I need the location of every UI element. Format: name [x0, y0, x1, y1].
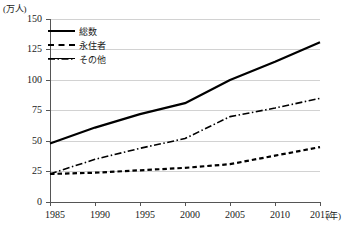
series-line-other [50, 98, 320, 174]
legend-item-total: 総数 [48, 24, 158, 38]
legend-swatch-dashdot-icon [48, 53, 75, 65]
legend-item-other: その他 [48, 52, 158, 66]
legend-label-permanent: 永住者 [79, 39, 106, 52]
chart-legend: 総数 永住者 その他 [48, 24, 158, 66]
legend-swatch-solid-icon [48, 25, 75, 37]
legend-swatch-dashed-icon [48, 39, 75, 51]
legend-item-permanent: 永住者 [48, 38, 158, 52]
chart-screenshot: (万人) 150 125 100 75 50 25 0 1985 1990 19… [0, 0, 349, 229]
legend-label-total: 総数 [79, 25, 97, 38]
legend-label-other: その他 [79, 53, 106, 66]
dashdot-glyph-icon [48, 53, 75, 65]
